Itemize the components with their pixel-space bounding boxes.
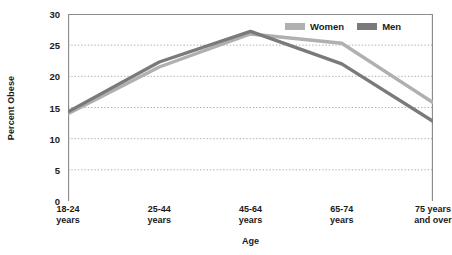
x-tick-label-line: years xyxy=(56,215,80,226)
legend-label-men: Men xyxy=(382,21,401,32)
x-tick-label-line: years xyxy=(239,215,263,226)
x-tick-label: 45-64years xyxy=(239,204,263,226)
y-axis-title: Percent Obese xyxy=(0,0,22,215)
x-tick-label-line: years xyxy=(330,215,354,226)
x-tick-label: 65-74years xyxy=(330,204,354,226)
x-tick-label-line: 75 years xyxy=(414,204,452,215)
x-tick-label-line: 65-74 xyxy=(330,204,354,215)
chart-legend: WomenMen xyxy=(283,18,403,35)
y-tick-label: 25 xyxy=(49,40,60,51)
legend-entry-men: Men xyxy=(357,21,401,32)
y-tick-label: 20 xyxy=(49,71,60,82)
x-tick-label: 75 yearsand over xyxy=(414,204,452,226)
legend-swatch-men xyxy=(357,23,377,30)
y-tick-label: 15 xyxy=(49,102,60,113)
legend-entry-women: Women xyxy=(285,21,344,32)
x-axis-tick-labels: 18-24years25-44years45-64years65-74years… xyxy=(68,204,433,236)
x-tick-label-line: 45-64 xyxy=(239,204,263,215)
legend-swatch-women xyxy=(285,23,305,30)
y-tick-label: 10 xyxy=(49,133,60,144)
x-tick-label-line: 18-24 xyxy=(56,204,80,215)
legend-label-women: Women xyxy=(310,21,344,32)
y-axis-title-text: Percent Obese xyxy=(6,75,16,139)
gridlines xyxy=(68,45,433,170)
x-tick-label-line: 25-44 xyxy=(147,204,171,215)
x-tick-label-line: and over xyxy=(414,215,452,226)
plot-svg xyxy=(68,14,433,201)
x-tick-label: 18-24years xyxy=(56,204,80,226)
y-tick-label: 5 xyxy=(55,164,60,175)
y-tick-label: 30 xyxy=(49,9,60,20)
plot-area xyxy=(68,14,433,201)
series-line-women xyxy=(68,34,433,114)
x-axis-title: Age xyxy=(68,236,433,246)
x-tick-label-line: years xyxy=(147,215,171,226)
y-axis-tick-labels: 051015202530 xyxy=(22,0,66,215)
x-tick-label: 25-44years xyxy=(147,204,171,226)
